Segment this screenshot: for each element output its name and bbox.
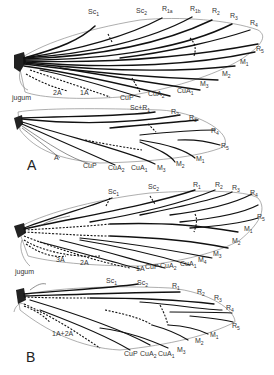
label-cup: CuP	[124, 350, 138, 357]
label-2a: 2A	[53, 89, 62, 96]
label-m2: M2	[222, 70, 231, 79]
label-cup: CuP	[83, 162, 97, 169]
label-r3: R3	[232, 184, 240, 193]
label-cup: CuP	[145, 263, 159, 270]
label-sc1: Sc1	[106, 277, 117, 286]
label-r1b: R1b	[190, 5, 201, 14]
label-jugum: jugum	[14, 268, 34, 276]
label-m1: M1	[240, 58, 249, 67]
label-r5: R5	[256, 45, 264, 54]
label-r5: R5	[221, 142, 229, 151]
panel-b-forewing	[14, 190, 262, 269]
label-a: A	[54, 154, 59, 161]
label-m3: M3	[177, 346, 186, 355]
label-m1: M1	[196, 155, 205, 164]
label-m1: M1	[210, 331, 219, 340]
label-cua2: CuA2	[108, 164, 125, 173]
panel-label-a: A	[27, 157, 37, 173]
panel-label-b: B	[26, 349, 35, 365]
label-r1: R1	[172, 282, 180, 291]
label-m2: M2	[176, 160, 185, 169]
label-1a: 1A	[80, 89, 89, 96]
label-r2: R2	[197, 288, 205, 297]
label-r1: R1	[193, 181, 201, 190]
wing-venation-diagram: Sc1 Sc2 R1a R1b R2 R3 R4 R5 M1 M2 M3 CuA…	[0, 0, 274, 375]
label-m3: M3	[200, 80, 209, 89]
label-sc-r1: Sc+R1	[130, 104, 150, 113]
label-r5: R5	[232, 322, 240, 331]
label-r4: R4	[250, 19, 258, 28]
label-cua2: CuA2	[148, 90, 165, 99]
label-r2: R2	[212, 7, 220, 16]
label-r3: R3	[189, 114, 197, 123]
label-m2: M2	[232, 237, 241, 246]
label-cua1: CuA1	[158, 350, 175, 359]
label-r3: R3	[214, 294, 222, 303]
label-sc2: Sc2	[136, 7, 147, 16]
label-cua1: CuA1	[131, 164, 148, 173]
label-cua2: CuA2	[160, 262, 177, 271]
label-m3: M3	[213, 250, 222, 259]
label-cua1: CuA1	[180, 260, 197, 269]
label-3a: 3A	[56, 256, 65, 263]
label-sc1: Sc1	[88, 8, 99, 17]
label-1a-2a: 1A+2A	[52, 330, 74, 337]
label-cup: CuP	[120, 94, 134, 101]
label-r1a: R1a	[162, 5, 173, 14]
label-m2: M2	[195, 337, 204, 346]
label-sc2: Sc2	[148, 183, 159, 192]
label-r3: R3	[230, 12, 238, 21]
label-m3: M3	[157, 164, 166, 173]
label-sc2: Sc2	[137, 279, 148, 288]
label-r2: R2	[215, 181, 223, 190]
label-jugum: jugum	[11, 94, 31, 102]
label-1a: 1A	[136, 265, 145, 272]
wing-base	[14, 115, 23, 130]
label-r4: R4	[211, 127, 219, 136]
label-r4: R4	[250, 189, 258, 198]
label-cua2: CuA2	[140, 350, 157, 359]
panel-b-hindwing-labels: Sc1 Sc2 R1 R2 R3 R4 R5 M1 M2 M3 CuA1 CuA…	[26, 277, 240, 365]
label-2a: 2A	[80, 259, 89, 266]
label-sc1: Sc1	[108, 188, 119, 197]
panel-a-forewing	[14, 17, 263, 98]
